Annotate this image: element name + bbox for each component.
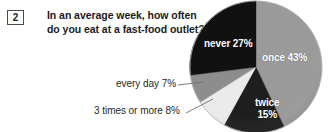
question-text: In an average week, how often do you eat…	[47, 9, 207, 36]
slice-label-once: once 43%	[262, 52, 307, 64]
slice-label-every-day: every day 7%	[116, 78, 176, 90]
slice-label-three-or-more: 3 times or more 8%	[94, 105, 180, 117]
question-text-line-1: In an average week, how often	[47, 9, 207, 23]
slice-label-twice: twice 15%	[255, 97, 280, 120]
question-number-box: 2	[7, 10, 24, 25]
question-number: 2	[13, 13, 19, 23]
slice-label-twice-line-1: twice	[255, 97, 280, 108]
survey-question-figure: 2 In an average week, how often do you e…	[0, 0, 331, 132]
slice-label-never: never 27%	[204, 38, 253, 50]
question-text-line-2: do you eat at a fast-food outlet?	[47, 23, 207, 37]
slice-label-twice-line-2: 15%	[255, 109, 280, 121]
